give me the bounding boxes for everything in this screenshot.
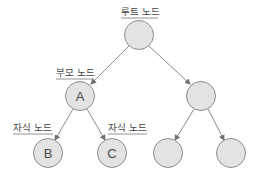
node-a-label: A xyxy=(76,89,85,104)
node-root xyxy=(125,21,154,50)
edge-a-to-c xyxy=(87,109,105,140)
child-node-caption-right: 자식 노드 xyxy=(108,122,147,133)
node-c-label: C xyxy=(107,146,116,161)
edge-right-to-rl xyxy=(175,109,194,140)
edge-root-to-right xyxy=(149,46,190,84)
node-b: B xyxy=(34,139,63,168)
tree-diagram: A B C 루트 노드 부모 노드 자식 노드 자식 노드 xyxy=(0,0,261,177)
node-c: C xyxy=(98,139,127,168)
edge-right-to-rr xyxy=(208,109,224,140)
node-right-left xyxy=(154,139,183,168)
edge-a-to-b xyxy=(55,109,73,140)
child-node-caption-left: 자식 노드 xyxy=(13,122,52,133)
parent-node-caption: 부모 노드 xyxy=(56,67,95,78)
edge-root-to-a xyxy=(91,46,129,84)
node-a: A xyxy=(66,82,95,111)
node-b-label: B xyxy=(44,146,53,161)
node-right-right xyxy=(217,139,246,168)
node-right xyxy=(187,82,216,111)
root-node-caption: 루트 노드 xyxy=(121,6,160,17)
